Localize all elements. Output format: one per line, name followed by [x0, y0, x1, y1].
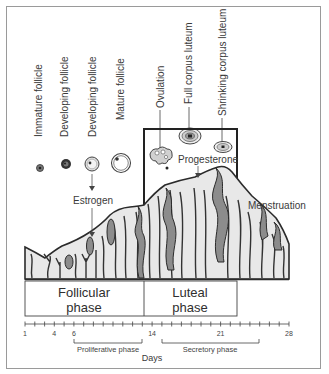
secretory-phase-label: Secretory phase: [183, 345, 238, 354]
label-full-corpus-luteum: Full corpus luteum: [183, 22, 194, 104]
day-axis: 1 4 6 14 21 28: [23, 322, 293, 338]
ovulation-icon: [150, 147, 172, 170]
luteal-phase-line1: Luteal: [172, 285, 208, 300]
label-immature-follicle: Immature follicle: [33, 64, 44, 137]
label-developing-follicle-2: Developing follicle: [87, 56, 98, 137]
shrinking-corpus-luteum-icon: [214, 142, 232, 153]
luteal-phase-line2: phase: [172, 300, 207, 315]
progesterone-label: Progesterone: [178, 154, 238, 165]
follicular-phase-line1: Follicular: [58, 285, 111, 300]
proliferative-phase-label: Proliferative phase: [77, 345, 139, 354]
menstrual-cycle-diagram: Immature follicle Developing follicle De…: [0, 0, 329, 374]
label-ovulation: Ovulation: [155, 66, 166, 108]
menstruation-label: Menstruation: [248, 200, 306, 211]
phase-box: Follicular phase Luteal phase: [25, 281, 237, 316]
tick-label-21: 21: [217, 330, 225, 337]
tick-label-6: 6: [72, 330, 76, 337]
estrogen-label: Estrogen: [73, 195, 113, 206]
tick-label-4: 4: [52, 330, 56, 337]
label-developing-follicle-1: Developing follicle: [59, 56, 70, 137]
label-shrinking-corpus-luteum: Shrinking corpus luteum: [217, 9, 228, 116]
full-corpus-luteum-icon: [179, 128, 201, 144]
tick-label-28: 28: [285, 330, 293, 337]
axis-label-days: Days: [142, 353, 163, 363]
immature-follicle-icon: [37, 165, 44, 172]
follicular-phase-line2: phase: [66, 300, 101, 315]
secretory-phase-bracket: Secretory phase: [162, 339, 259, 354]
label-mature-follicle: Mature follicle: [115, 58, 126, 120]
mature-follicle-icon: [112, 154, 131, 173]
proliferative-phase-bracket: Proliferative phase: [74, 339, 142, 354]
tick-label-1: 1: [23, 330, 27, 337]
developing-follicle-icon-1: [61, 159, 71, 169]
stage-labels: Immature follicle Developing follicle De…: [33, 9, 228, 137]
endometrium-tissue: [25, 167, 289, 279]
developing-follicle-icon-2: [85, 157, 99, 171]
tick-label-14: 14: [148, 330, 156, 337]
